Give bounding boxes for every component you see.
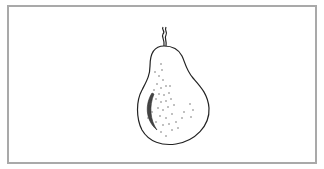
pear-illustration <box>0 0 324 169</box>
pear-body-outline <box>138 46 210 144</box>
pear-stem <box>162 27 166 46</box>
